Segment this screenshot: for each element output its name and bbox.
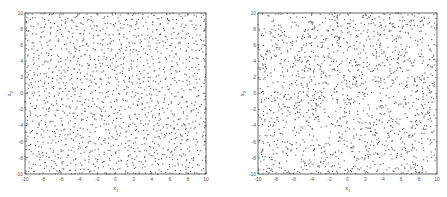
y-tick-label: 8 [20,26,23,32]
y-tick-label: 4 [253,58,256,64]
y-axis-label: x2 [6,90,14,96]
scatter-plot-left: -10-8-6-4-20246810-10-8-6-4-20246810x1x2 [0,0,223,197]
y-tick-label: -10 [249,171,256,177]
data-points [25,13,207,175]
y-tick-label: 6 [20,42,23,48]
x-tick-label: -2 [327,176,332,182]
data-points [258,13,438,175]
x-tick-label: 2 [132,176,135,182]
x-tick-label: 0 [346,176,349,182]
x-tick-label: -2 [95,176,100,182]
y-tick-label: 6 [253,42,256,48]
y-tick-label: -8 [252,155,257,161]
chart-left-quasi-uniform: -10-8-6-4-20246810-10-8-6-4-20246810x1x2 [0,0,223,197]
y-tick-label: 0 [20,90,23,96]
y-tick-label: -6 [19,139,24,145]
y-tick-label: -2 [19,106,24,112]
y-tick-label: 10 [250,10,256,16]
x-tick-label: 6 [400,176,403,182]
x-tick-label: -4 [309,176,314,182]
axis-ticks: -10-8-6-4-20246810-10-8-6-4-20246810 [16,10,209,182]
y-tick-label: -8 [19,155,24,161]
y-tick-label: -6 [252,139,257,145]
x-tick-label: -10 [21,176,28,182]
chart-right-random: -10-8-6-4-20246810-10-8-6-4-20246810x1x2 [223,0,447,197]
x-tick-label: -8 [41,176,46,182]
x-tick-label: 4 [382,176,385,182]
x-tick-label: -4 [77,176,82,182]
y-tick-label: 4 [20,58,23,64]
x-tick-label: -8 [274,176,279,182]
x-tick-label: 10 [434,176,440,182]
scatter-plot-right: -10-8-6-4-20246810-10-8-6-4-20246810x1x2 [223,0,447,197]
x-tick-label: 8 [187,176,190,182]
x-tick-label: 4 [150,176,153,182]
x-tick-label: 6 [168,176,171,182]
x-tick-label: -10 [254,176,261,182]
y-tick-label: -10 [16,171,23,177]
x-tick-label: 0 [114,176,117,182]
plot-frame [25,13,206,174]
y-tick-label: -4 [19,122,24,128]
y-tick-label: 0 [253,90,256,96]
y-tick-label: 2 [20,74,23,80]
y-tick-label: -2 [252,106,257,112]
y-tick-label: 2 [253,74,256,80]
x-axis-label: x1 [345,185,351,193]
x-tick-label: 2 [364,176,367,182]
y-tick-label: 8 [253,26,256,32]
y-tick-label: 10 [17,10,23,16]
x-tick-label: 8 [418,176,421,182]
x-tick-label: -6 [59,176,64,182]
y-axis-label: x2 [239,90,247,96]
y-tick-label: -4 [252,122,257,128]
x-tick-label: 10 [203,176,209,182]
x-tick-label: -6 [292,176,297,182]
x-axis-label: x1 [113,185,119,193]
